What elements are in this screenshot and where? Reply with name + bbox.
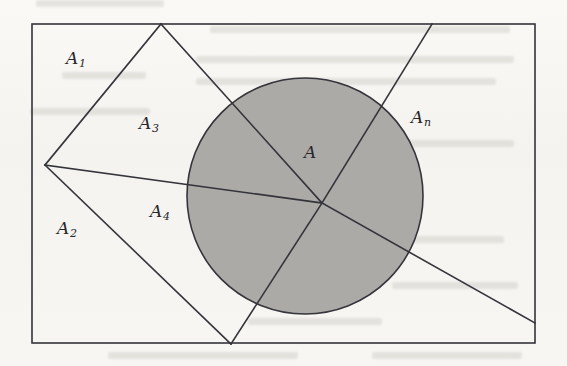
shaded-circle [187, 78, 423, 314]
region-label-A: A [304, 142, 317, 164]
region-label-A3: A3 [139, 113, 159, 135]
figure-page: A1 A3 A2 A4 A An [0, 0, 567, 366]
region-label-A4: A4 [150, 201, 170, 223]
segment-quad-top-left-edge [45, 24, 161, 165]
region-label-An: An [411, 107, 431, 129]
region-label-A2: A2 [57, 218, 77, 240]
region-label-A1: A1 [66, 48, 86, 70]
